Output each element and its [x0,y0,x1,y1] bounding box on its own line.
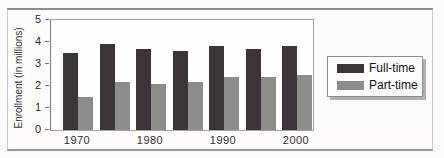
y-tick-label-3: 3 [23,58,41,69]
legend-item-part-time: Part-time [337,79,422,92]
y-tick-1 [45,107,49,108]
enrollment-bar-chart: Enrollment (in millions) Full-time Part-… [0,0,444,158]
bar-full-time-1990 [209,46,224,130]
bar-part-time-1970 [78,97,93,130]
bar-full-time-1985 [173,51,188,130]
bar-full-time-2000 [282,46,297,130]
plot-area [50,19,314,131]
y-axis-title: Enrollment (in millions) [13,29,24,129]
part-time-swatch [337,81,364,90]
y-tick-3 [45,63,49,64]
bar-full-time-1980 [136,49,151,130]
bar-part-time-1975 [115,82,130,130]
legend-label-part-time: Part-time [369,79,418,92]
y-tick-label-0: 0 [23,124,41,135]
bar-full-time-1995 [246,49,261,130]
y-tick-label-4: 4 [23,36,41,47]
bar-full-time-1970 [63,53,78,130]
legend: Full-time Part-time [327,56,423,97]
bar-full-time-1975 [100,44,115,130]
legend-item-full-time: Full-time [337,62,422,75]
bar-part-time-2000 [297,75,312,130]
x-tick-label-1980: 1980 [137,134,163,146]
y-tick-2 [45,85,49,86]
bar-part-time-1985 [188,82,203,130]
y-tick-label-5: 5 [23,14,41,25]
legend-label-full-time: Full-time [369,62,415,75]
bar-part-time-1990 [224,77,239,130]
y-tick-0 [45,129,49,130]
x-tick-label-1970: 1970 [64,134,90,146]
y-tick-4 [45,41,49,42]
full-time-swatch [337,64,364,73]
y-tick-5 [45,19,49,20]
bar-part-time-1995 [261,77,276,130]
x-tick-label-1990: 1990 [210,134,236,146]
y-tick-label-2: 2 [23,80,41,91]
bar-part-time-1980 [151,84,166,130]
y-tick-label-1: 1 [23,102,41,113]
x-tick-label-2000: 2000 [283,134,309,146]
